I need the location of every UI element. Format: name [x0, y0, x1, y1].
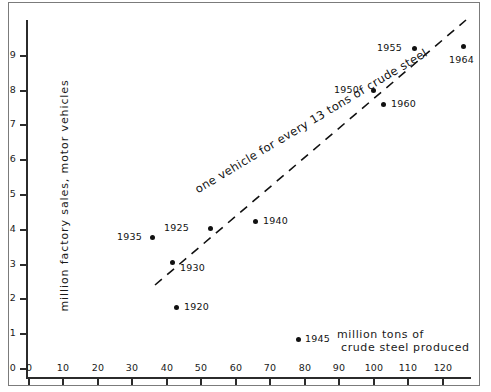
- y-tick-4: [20, 229, 26, 231]
- x-tick-label-100: 100: [363, 362, 385, 373]
- data-point-label-1930: 1930: [180, 262, 205, 273]
- x-axis-title-line-1: million tons of: [337, 328, 424, 341]
- y-tick-3: [20, 264, 26, 266]
- x-tick-30: [131, 379, 133, 385]
- y-tick-label-2: 2: [2, 292, 16, 303]
- y-tick-8: [20, 90, 26, 92]
- y-tick-label-1: 1: [2, 327, 16, 338]
- x-tick-100: [373, 379, 375, 385]
- data-point-label-1925: 1925: [164, 222, 189, 233]
- data-point-1955[interactable]: [412, 46, 417, 51]
- x-tick-10: [62, 379, 64, 385]
- y-tick-1: [20, 333, 26, 335]
- x-tick-label-20: 20: [87, 362, 109, 373]
- data-point-1964[interactable]: [461, 44, 466, 49]
- x-tick-label-0: 0: [18, 362, 40, 373]
- x-tick-label-120: 120: [432, 362, 454, 373]
- data-point-label-1955: 1955: [377, 42, 402, 53]
- data-point-1945[interactable]: [296, 337, 301, 342]
- y-axis-title: million factory sales, motor vehicles: [58, 82, 71, 312]
- data-point-1950[interactable]: [371, 88, 376, 93]
- data-point-1930[interactable]: [170, 260, 175, 265]
- chart-page: 0 1 2 3 4 5 6 7 8 9 0 10 20 30 40 50 60 …: [0, 0, 491, 392]
- plot-area: 0 1 2 3 4 5 6 7 8 9 0 10 20 30 40 50 60 …: [0, 0, 491, 392]
- y-tick-label-4: 4: [2, 223, 16, 234]
- y-tick-label-8: 8: [2, 84, 16, 95]
- data-point-label-1935: 1935: [117, 231, 142, 242]
- data-point-1935[interactable]: [150, 235, 155, 240]
- y-tick-label-5: 5: [2, 188, 16, 199]
- data-point-1920[interactable]: [174, 305, 179, 310]
- y-tick-5: [20, 194, 26, 196]
- y-axis-line: [26, 20, 28, 378]
- y-tick-6: [20, 159, 26, 161]
- data-point-1960[interactable]: [381, 102, 386, 107]
- data-point-label-1950: 1950: [334, 84, 359, 95]
- x-tick-90: [338, 379, 340, 385]
- x-tick-label-90: 90: [328, 362, 350, 373]
- y-tick-label-7: 7: [2, 118, 16, 129]
- x-axis-title-line-2: crude steel produced: [341, 341, 470, 354]
- x-tick-120: [442, 379, 444, 385]
- x-tick-110: [407, 379, 409, 385]
- y-tick-9: [20, 55, 26, 57]
- x-tick-label-30: 30: [121, 362, 143, 373]
- data-point-1940[interactable]: [253, 219, 258, 224]
- x-tick-0: [28, 379, 30, 385]
- x-tick-label-60: 60: [225, 362, 247, 373]
- trend-line-annotation: one vehicle for every 13 tons of crude s…: [192, 46, 429, 196]
- data-point-label-1940: 1940: [263, 215, 288, 226]
- x-tick-70: [269, 379, 271, 385]
- data-point-label-1964: 1964: [449, 54, 474, 65]
- y-tick-label-3: 3: [2, 258, 16, 269]
- x-axis-title: million tons of crude steel produced: [337, 328, 470, 354]
- y-tick-label-0: 0: [2, 362, 16, 373]
- y-tick-2: [20, 298, 26, 300]
- y-tick-7: [20, 124, 26, 126]
- x-tick-60: [235, 379, 237, 385]
- data-point-label-1920: 1920: [184, 301, 209, 312]
- x-tick-label-40: 40: [156, 362, 178, 373]
- data-point-label-1960: 1960: [391, 98, 416, 109]
- x-tick-40: [166, 379, 168, 385]
- x-axis-line: [26, 377, 471, 379]
- y-tick-label-9: 9: [2, 49, 16, 60]
- x-tick-label-80: 80: [294, 362, 316, 373]
- data-point-1925[interactable]: [208, 226, 213, 231]
- x-tick-label-70: 70: [259, 362, 281, 373]
- x-tick-label-110: 110: [397, 362, 419, 373]
- x-tick-20: [97, 379, 99, 385]
- x-tick-label-50: 50: [190, 362, 212, 373]
- x-tick-label-10: 10: [52, 362, 74, 373]
- y-tick-label-6: 6: [2, 153, 16, 164]
- x-tick-80: [304, 379, 306, 385]
- x-tick-50: [200, 379, 202, 385]
- data-point-label-1945: 1945: [305, 333, 330, 344]
